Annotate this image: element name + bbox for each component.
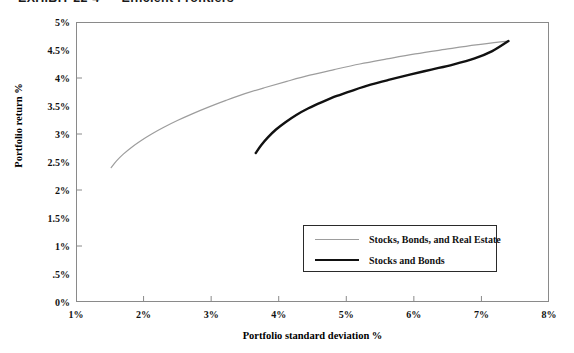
legend-item-stocks-and-bonds: Stocks and Bonds (304, 251, 496, 269)
legend-label: Stocks, Bonds, and Real Estate (369, 234, 501, 245)
x-axis-title: Portfolio standard deviation % (76, 330, 549, 341)
exhibit-title: EXHIBIT 22-4Efficient Frontiers (18, 0, 234, 5)
y-tick-label: 4.5% (26, 45, 70, 56)
y-tick-label: 1% (26, 241, 70, 252)
legend-item-stocks-bonds-real-estate: Stocks, Bonds, and Real Estate (304, 230, 496, 248)
y-tick-label: 2.5% (26, 157, 70, 168)
exhibit-title-strip: EXHIBIT 22-4Efficient Frontiers (0, 0, 574, 9)
y-tick-label: 2% (26, 185, 70, 196)
exhibit-caption: Efficient Frontiers (121, 0, 234, 5)
y-axis-title: Portfolio return % (13, 56, 24, 196)
y-tick-label: 0% (26, 297, 70, 308)
exhibit-number: EXHIBIT 22-4 (18, 0, 99, 5)
series-line-1 (256, 41, 509, 153)
x-tick-label: 8% (542, 309, 557, 320)
y-tick-label: 5% (26, 17, 70, 28)
legend: Stocks, Bonds, and Real Estate Stocks an… (303, 225, 497, 272)
y-tick-label: 1.5% (26, 213, 70, 224)
legend-swatch-gray-line-icon (315, 239, 359, 240)
exhibit-figure: EXHIBIT 22-4Efficient Frontiers Portfoli… (0, 0, 574, 353)
x-tick-label: 1% (69, 309, 84, 320)
legend-swatch-black-line-icon (315, 259, 359, 261)
y-tick-label: 4% (26, 73, 70, 84)
x-tick-label: 5% (339, 309, 354, 320)
x-tick-label: 6% (406, 309, 421, 320)
y-tick-label: .5% (26, 269, 70, 280)
x-tick-label: 7% (474, 309, 489, 320)
y-tick-label: 3.5% (26, 101, 70, 112)
legend-label: Stocks and Bonds (369, 255, 445, 266)
series-line-0 (111, 41, 508, 168)
x-tick-label: 4% (271, 309, 286, 320)
x-tick-label: 3% (204, 309, 219, 320)
x-tick-label: 2% (136, 309, 151, 320)
y-tick-label: 3% (26, 129, 70, 140)
